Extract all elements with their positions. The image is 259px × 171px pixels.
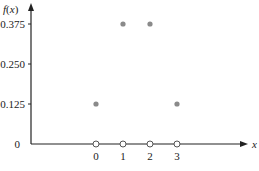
- x-tick-label: 3: [174, 150, 180, 162]
- x-tick-label: 0: [93, 150, 99, 162]
- x-axis-label: x: [251, 138, 257, 150]
- x-tick-label: 1: [120, 150, 126, 162]
- x-tick-label: 2: [147, 150, 153, 162]
- data-point: [120, 21, 125, 26]
- y-ticks: 0.375 0.250 0.125 0: [0, 18, 31, 150]
- data-point: [174, 101, 179, 106]
- data-point: [147, 21, 152, 26]
- y-tick-label: 0: [15, 138, 21, 150]
- y-axis-arrow-icon: [28, 3, 34, 11]
- y-tick-label: 0.375: [0, 18, 25, 30]
- data-points: [93, 21, 179, 106]
- y-axis-label: f(x): [3, 3, 19, 16]
- x-axis-arrow-icon: [240, 141, 248, 147]
- y-tick-label: 0.125: [0, 98, 25, 110]
- y-tick-label: 0.250: [0, 58, 25, 70]
- data-point: [93, 101, 98, 106]
- probability-mass-chart: f(x) x 0.375 0.250 0.125 0 0 1 2 3: [0, 0, 259, 171]
- x-ticks: 0 1 2 3: [93, 150, 180, 162]
